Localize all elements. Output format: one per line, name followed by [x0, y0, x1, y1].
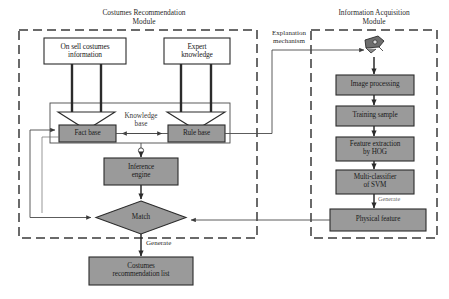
- junction-dot: [138, 148, 143, 153]
- node-feature-extraction-box: [336, 137, 414, 161]
- node-match-diamond: [96, 201, 186, 234]
- node-image-processing-box: [336, 75, 414, 95]
- node-training-sample-box: [336, 106, 414, 126]
- knowledge-base-label: Knowledge base: [114, 113, 168, 129]
- feedback-rail-outer: [42, 137, 59, 213]
- node-costumes-recommendation-list-box: [89, 257, 193, 285]
- node-on-sell-costumes-box: [44, 38, 126, 64]
- node-expert-knowledge-box: [164, 38, 230, 64]
- node-multi-classifier-box: [336, 170, 414, 194]
- node-inference-engine-box: [104, 158, 178, 185]
- knowledge-base-line1: Knowledge: [124, 112, 157, 120]
- diagram-canvas: Costumes Recommendation Module Informati…: [0, 0, 449, 299]
- module-title-right-line2: Module: [363, 17, 386, 26]
- node-rule-base-box: [168, 125, 225, 142]
- edge-label-generate-bottom: Generate: [146, 240, 202, 248]
- camera-icon: [365, 36, 384, 53]
- feedback-loop-match-to-fact-base: [30, 130, 52, 218]
- edge-label-explanation-mechanism: Explanation mechanism: [256, 30, 322, 45]
- module-title-information-acquisition: Information Acquisition Module: [302, 9, 446, 26]
- node-physical-feature-box: [330, 209, 426, 231]
- node-fact-base-box: [59, 125, 116, 142]
- generate-right-text: Generate: [378, 195, 400, 202]
- module-title-costumes-recommendation: Costumes Recommendation Module: [64, 9, 224, 26]
- explanation-mechanism-line2: mechanism: [273, 37, 305, 45]
- diagram-vector-layer: [0, 0, 449, 299]
- generate-bottom-text: Generate: [146, 239, 171, 247]
- knowledge-base-line2: base: [135, 120, 148, 128]
- module-title-left-line2: Module: [133, 17, 156, 26]
- edge-label-generate-right: Generate: [378, 196, 426, 203]
